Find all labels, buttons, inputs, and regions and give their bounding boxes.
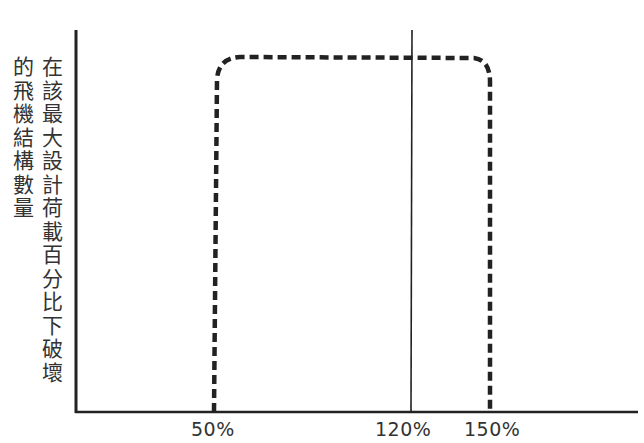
y-axis-label-col1: 在該最大設計荷載百分比下破壞	[40, 56, 64, 385]
x-tick-120: 120%	[375, 418, 431, 440]
x-tick-150: 150%	[464, 418, 520, 440]
y-axis-label-col2: 的飛機結構數量	[11, 56, 35, 221]
x-tick-50: 50%	[191, 418, 235, 440]
distribution-curve	[214, 57, 490, 412]
reference-line-120	[411, 30, 412, 412]
chart-canvas	[0, 0, 644, 443]
